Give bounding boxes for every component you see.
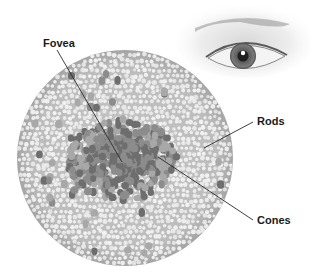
retina-diagram: Fovea Rods Cones [0, 0, 310, 280]
eye-illustration [175, 2, 310, 78]
label-rods: Rods [257, 115, 285, 127]
retina-disc [17, 50, 234, 266]
label-fovea: Fovea [43, 37, 75, 49]
label-cones: Cones [257, 214, 291, 226]
eye-highlight [241, 51, 245, 55]
